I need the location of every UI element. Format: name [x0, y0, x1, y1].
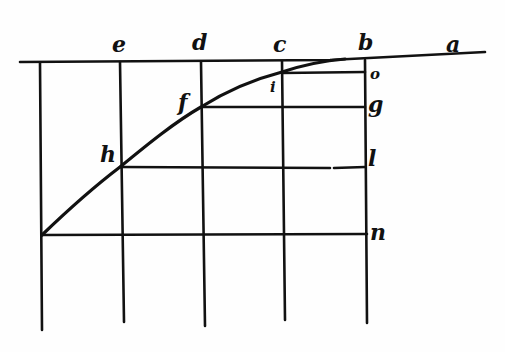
vertical-line-c: [282, 61, 285, 320]
curve: [42, 59, 345, 235]
label-o: o: [370, 65, 380, 83]
vertical-line-left: [40, 63, 42, 330]
vertical-line-b: [365, 60, 367, 323]
label-l: l: [368, 145, 376, 171]
label-a: a: [446, 31, 460, 57]
top-baseline: [20, 52, 485, 62]
label-e: e: [112, 31, 126, 57]
label-c: c: [273, 31, 287, 57]
diagram-canvas: e d c b a f h i o g l n: [0, 0, 505, 352]
label-g: g: [368, 91, 383, 117]
geometric-diagram: e d c b a f h i o g l n: [0, 0, 505, 352]
label-d: d: [192, 29, 207, 55]
horizontal-line-n: [42, 234, 367, 235]
vertical-line-d: [201, 62, 205, 326]
horizontal-line-io: [282, 72, 365, 73]
vertical-line-e: [120, 62, 124, 322]
label-i: i: [270, 78, 276, 96]
label-b: b: [358, 29, 373, 55]
label-n: n: [370, 219, 386, 245]
label-f: f: [176, 89, 191, 115]
label-h: h: [100, 141, 116, 167]
horizontal-line-hl: [120, 167, 365, 168]
